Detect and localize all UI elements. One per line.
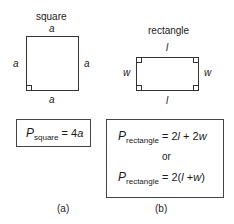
right-angle-marker xyxy=(193,85,199,91)
formula-symbol: P xyxy=(26,126,34,140)
rectangle-side-label-top: l xyxy=(166,42,168,53)
rectangle-perimeter-formula-1: Prectangle = 2l + 2w xyxy=(118,129,207,145)
formula-part: + 2 xyxy=(180,130,199,142)
square-side-label-top: a xyxy=(49,23,55,34)
formula-subscript: rectangle xyxy=(126,177,159,186)
formula-subscript: square xyxy=(34,133,58,142)
rectangle-perimeter-formula-2: Prectangle = 2(l +w) xyxy=(118,170,205,186)
rectangle-side-label-right: w xyxy=(204,67,211,78)
formula-connector-or: or xyxy=(162,151,171,162)
square-title: square xyxy=(36,11,67,22)
right-angle-marker xyxy=(136,57,142,63)
formula-symbol: P xyxy=(118,129,126,143)
formula-rhs: = 4 xyxy=(62,127,78,139)
formula-part: + xyxy=(184,171,193,183)
rectangle-shape xyxy=(136,57,199,91)
formula-var: w xyxy=(199,130,207,142)
right-angle-marker xyxy=(136,85,142,91)
rectangle-side-label-left: w xyxy=(123,67,130,78)
formula-var: w xyxy=(193,171,201,183)
square-perimeter-formula: Psquare = 4a xyxy=(26,126,83,142)
formula-var: a xyxy=(77,127,83,139)
rectangle-title: rectangle xyxy=(148,25,189,36)
caption-b: (b) xyxy=(155,203,167,214)
right-angle-marker xyxy=(26,85,32,91)
caption-a: (a) xyxy=(57,203,69,214)
formula-part: ) xyxy=(201,171,205,183)
square-side-label-bottom: a xyxy=(49,94,55,105)
formula-part: = 2 xyxy=(162,130,178,142)
right-angle-marker xyxy=(193,57,199,63)
rectangle-formula-box: Prectangle = 2l + 2w or Prectangle = 2(l… xyxy=(106,119,224,198)
square-side-label-right: a xyxy=(84,58,90,69)
formula-symbol: P xyxy=(118,170,126,184)
rectangle-side-label-bottom: l xyxy=(166,95,168,106)
formula-part: = 2( xyxy=(162,171,181,183)
square-formula-box: Psquare = 4a xyxy=(16,119,91,147)
formula-subscript: rectangle xyxy=(126,136,159,145)
square-side-label-left: a xyxy=(13,58,19,69)
square-shape xyxy=(26,36,79,91)
